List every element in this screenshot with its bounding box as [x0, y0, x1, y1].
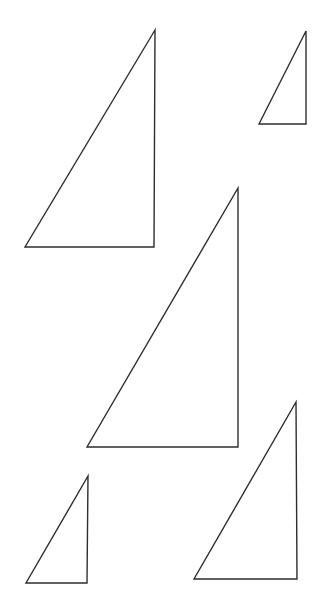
figure-canvas [0, 0, 321, 611]
triangles-drawing [0, 0, 321, 611]
large-upper-left-triangle [25, 30, 155, 247]
medium-lower-right-triangle [194, 402, 297, 579]
small-upper-right-triangle [259, 31, 306, 124]
largest-center-triangle [87, 188, 238, 447]
small-lower-left-triangle [26, 476, 88, 583]
